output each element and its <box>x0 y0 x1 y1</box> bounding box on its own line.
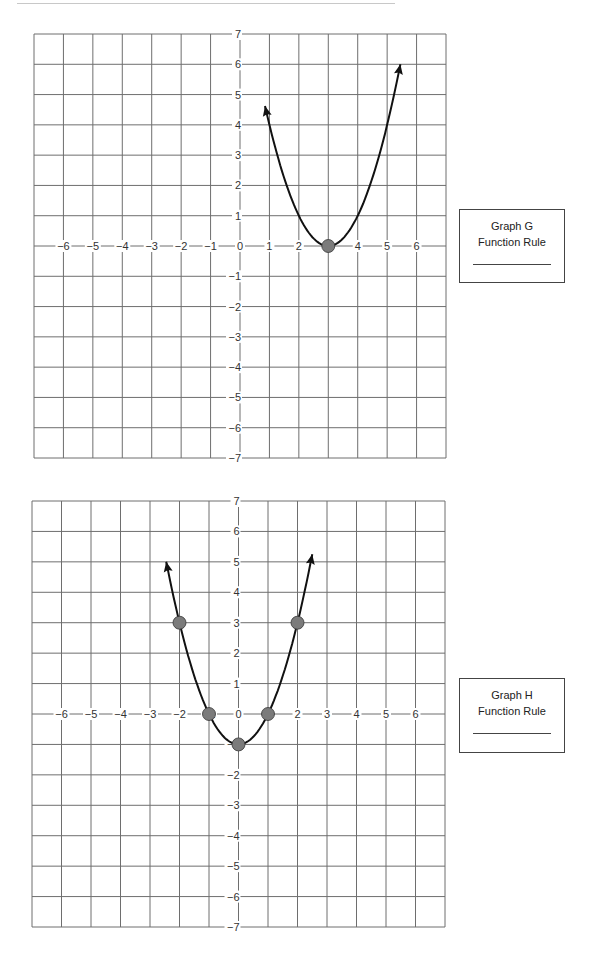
graph-g-title: Graph G <box>460 218 564 234</box>
svg-text:−2: −2 <box>173 708 186 720</box>
data-point <box>262 708 275 721</box>
graph-g-answer-blank[interactable] <box>473 264 551 265</box>
svg-text:2: 2 <box>294 708 300 720</box>
svg-text:3: 3 <box>233 617 239 629</box>
svg-text:−4: −4 <box>114 708 127 720</box>
svg-text:5: 5 <box>233 556 239 568</box>
graph-h-function-rule-box: Graph H Function Rule <box>459 678 565 753</box>
graph-h-rule-label: Function Rule <box>460 703 564 719</box>
svg-text:−5: −5 <box>227 860 240 872</box>
svg-text:6: 6 <box>233 525 239 537</box>
svg-text:−3: −3 <box>227 799 240 811</box>
graph-h-plot: −6−5−4−3−2−10123456−7−6−5−4−3−2−11234567 <box>0 0 597 968</box>
data-point <box>291 616 304 629</box>
svg-text:7: 7 <box>233 495 239 507</box>
svg-text:4: 4 <box>233 586 239 598</box>
svg-text:−3: −3 <box>144 708 157 720</box>
data-point <box>173 616 186 629</box>
svg-text:3: 3 <box>324 708 330 720</box>
graph-g-function-rule-box: Graph G Function Rule <box>459 209 565 283</box>
svg-text:2: 2 <box>233 647 239 659</box>
svg-text:−4: −4 <box>227 830 240 842</box>
svg-text:4: 4 <box>353 708 359 720</box>
svg-text:−2: −2 <box>227 769 240 781</box>
svg-text:−5: −5 <box>85 708 98 720</box>
svg-text:−6: −6 <box>55 708 68 720</box>
graph-h-answer-blank[interactable] <box>473 733 551 734</box>
graph-g-rule-label: Function Rule <box>460 234 564 250</box>
svg-text:5: 5 <box>383 708 389 720</box>
svg-text:6: 6 <box>412 708 418 720</box>
svg-text:0: 0 <box>235 708 241 720</box>
data-point <box>203 708 216 721</box>
svg-text:−7: −7 <box>227 921 240 933</box>
data-point <box>232 738 245 751</box>
svg-text:1: 1 <box>233 678 239 690</box>
svg-text:−6: −6 <box>227 891 240 903</box>
graph-h-title: Graph H <box>460 687 564 703</box>
